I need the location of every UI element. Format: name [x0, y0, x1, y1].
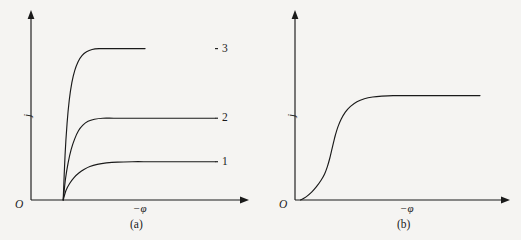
- panel-caption-b: (b): [397, 219, 410, 231]
- panel-b-curves: [301, 96, 480, 200]
- y-axis-arrow-icon: [28, 10, 35, 19]
- curve-2: [63, 118, 215, 200]
- x-axis-arrow-icon: [240, 197, 249, 204]
- x-axis-label: −φ: [133, 203, 147, 214]
- curve-1: [63, 162, 215, 200]
- x-axis-arrow-icon: [501, 197, 510, 204]
- panel-a-axes: [28, 10, 249, 203]
- panel-b-plot: [260, 0, 521, 240]
- curve-curve: [301, 96, 480, 200]
- panel-caption-a: (a): [130, 219, 143, 231]
- curve-3: [63, 49, 145, 200]
- panel-a-plot: [0, 0, 260, 240]
- curve-label-2: 2: [222, 112, 228, 124]
- y-axis-arrow-icon: [292, 10, 299, 19]
- figure-root: O j −φ (a) 3 2 1 O j −φ (b): [0, 0, 521, 240]
- panel-b: O j −φ (b): [260, 0, 521, 240]
- curve-label-1: 1: [222, 156, 228, 168]
- x-axis-label: −φ: [400, 203, 414, 214]
- y-axis-label: j: [22, 114, 33, 117]
- panel-a-curves: [63, 49, 215, 200]
- origin-label: O: [279, 199, 287, 211]
- y-axis-label: j: [286, 114, 297, 117]
- panel-a: O j −φ (a) 3 2 1: [0, 0, 260, 240]
- origin-label: O: [15, 199, 23, 211]
- panel-a-curve-leaders: [215, 49, 218, 162]
- curve-label-3: 3: [222, 43, 228, 55]
